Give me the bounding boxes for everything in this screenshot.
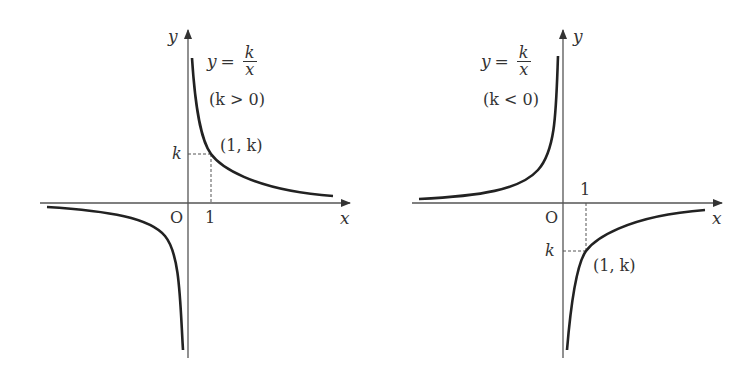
- y-axis-label: y: [573, 28, 583, 45]
- curve-branch-q4: [567, 210, 705, 350]
- origin-label: O: [170, 210, 183, 226]
- fraction-numerator: k: [517, 45, 531, 61]
- y-axis-label: y: [168, 28, 178, 45]
- equation-k-negative: y = k x: [481, 45, 531, 78]
- condition-label: (k < 0): [483, 92, 539, 108]
- equation-lhs: y: [481, 53, 491, 70]
- equation-k-positive: y = k x: [207, 45, 257, 78]
- x-axis-label: x: [340, 210, 350, 227]
- curve-branch-q1: [192, 58, 333, 196]
- curve-branch-q3: [47, 207, 183, 350]
- point-label: (1, k): [593, 258, 636, 274]
- x-axis-label: x: [712, 210, 722, 227]
- fraction: k x: [243, 45, 257, 78]
- tick-label-k: k: [172, 146, 182, 162]
- point-label: (1, k): [220, 138, 263, 154]
- tick-label-k: k: [545, 243, 555, 259]
- fraction-numerator: k: [243, 45, 257, 61]
- fraction-denominator: x: [519, 62, 528, 78]
- equation-op: =: [495, 53, 509, 70]
- panel-k-negative: [412, 30, 722, 358]
- tick-label-1: 1: [580, 182, 590, 198]
- fraction: k x: [517, 45, 531, 78]
- tick-label-1: 1: [205, 210, 215, 226]
- equation-lhs: y: [207, 53, 217, 70]
- condition-label: (k > 0): [209, 92, 265, 108]
- panel-k-positive: [40, 30, 350, 358]
- origin-label: O: [545, 210, 558, 226]
- fraction-denominator: x: [245, 62, 254, 78]
- hyperbola-diagrams: [0, 0, 752, 382]
- equation-op: =: [221, 53, 235, 70]
